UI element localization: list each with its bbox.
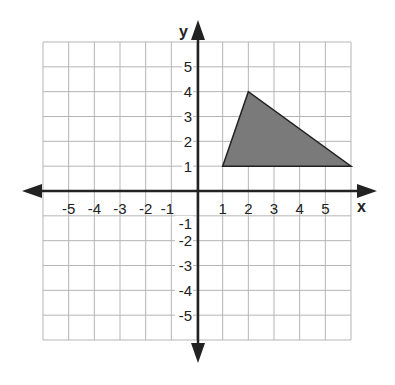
y-tick-label: 2 [184, 133, 192, 150]
y-tick-label: 5 [184, 58, 192, 75]
y-axis-label: y [179, 23, 188, 40]
y-tick-label: 3 [184, 108, 192, 125]
x-tick-label: -4 [88, 200, 101, 217]
x-tick-label: 5 [321, 200, 329, 217]
x-axis-right-arrow-icon [357, 184, 377, 198]
x-tick-label: 2 [244, 200, 252, 217]
axes [22, 20, 377, 363]
y-tick-label: -1 [179, 215, 192, 232]
x-tick-label: -2 [139, 200, 152, 217]
y-tick-label: 1 [184, 158, 192, 175]
x-tick-label: 3 [270, 200, 278, 217]
x-tick-label: -5 [62, 200, 75, 217]
y-tick-label: -3 [179, 257, 192, 274]
coordinate-plane: -5-4-3-2-112345 54321-1-2-3-4-5 x y [0, 0, 395, 385]
x-tick-labels: -5-4-3-2-112345 [62, 200, 330, 217]
y-axis-down-arrow-icon [191, 343, 205, 363]
x-tick-label: -3 [113, 200, 126, 217]
y-tick-label: -5 [179, 307, 192, 324]
y-tick-label: -2 [179, 232, 192, 249]
x-tick-label: 4 [295, 200, 303, 217]
y-axis-up-arrow-icon [191, 20, 205, 40]
x-axis-left-arrow-icon [22, 184, 42, 198]
x-axis-label: x [357, 198, 366, 215]
y-tick-label: 4 [184, 83, 192, 100]
y-tick-label: -4 [179, 282, 192, 299]
x-tick-label: -1 [161, 200, 174, 217]
x-tick-label: 1 [218, 200, 226, 217]
shaded-triangle [223, 92, 351, 167]
